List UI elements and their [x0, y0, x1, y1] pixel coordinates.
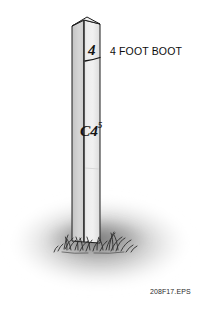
marker-post: 4 C4 5	[72, 17, 103, 243]
post-body-marking: C4	[80, 122, 98, 139]
post-top-marking: 4	[87, 42, 96, 58]
figure-caption: 208F17.EPS	[150, 288, 191, 295]
post-body-marking-superscript: 5	[98, 120, 103, 130]
callout-label: 4 FOOT BOOT	[110, 46, 182, 57]
